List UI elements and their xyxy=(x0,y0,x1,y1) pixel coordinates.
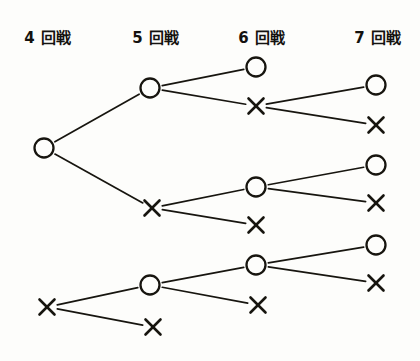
edge-n6e-to-n7e xyxy=(268,247,363,263)
node-circle-n7e xyxy=(367,236,386,255)
column-header-round5: 5 回戦 xyxy=(132,26,180,47)
edge-n6b-to-n7b xyxy=(266,108,365,124)
edges-group xyxy=(55,69,366,325)
edge-n6c-to-n7c xyxy=(268,167,363,185)
tournament-tree-diagram: 4 回戦5 回戦6 回戦7 回戦 xyxy=(0,0,420,361)
edge-n6e-to-n7f xyxy=(268,267,365,282)
node-circle-n5a xyxy=(141,79,160,98)
column-header-round7: 7 回戦 xyxy=(354,26,402,47)
node-cross-n6b xyxy=(249,99,264,114)
edge-n4b-to-n5c xyxy=(57,288,138,305)
node-cross-n7d xyxy=(369,196,384,211)
node-circle-n6c xyxy=(247,178,266,197)
node-cross-n5d xyxy=(146,320,161,335)
edge-n4a-to-n5a xyxy=(55,94,139,142)
node-circle-n7c xyxy=(367,156,386,175)
edge-n5a-to-n6a xyxy=(162,69,243,85)
edge-n4a-to-n5b xyxy=(55,154,143,203)
node-cross-n7f xyxy=(369,276,384,291)
tree-graphics xyxy=(0,0,420,361)
edge-n5b-to-n6c xyxy=(162,189,243,205)
edge-n4b-to-n5d xyxy=(57,309,142,325)
node-cross-n7b xyxy=(369,118,384,133)
node-cross-n5b xyxy=(145,201,160,216)
node-circle-n5c xyxy=(141,276,160,295)
node-circle-n6e xyxy=(247,256,266,275)
node-cross-n6d xyxy=(249,218,264,233)
edge-n6c-to-n7d xyxy=(268,189,365,202)
node-circle-n4a xyxy=(35,139,54,158)
column-header-round4: 4 回戦 xyxy=(24,26,72,47)
edge-n5c-to-n6e xyxy=(162,267,243,282)
edge-n6b-to-n7a xyxy=(266,87,363,104)
node-cross-n4b xyxy=(40,300,55,315)
node-circle-n7a xyxy=(367,76,386,95)
edge-n5a-to-n6b xyxy=(162,90,245,104)
edge-n5b-to-n6d xyxy=(162,210,245,224)
column-header-round6: 6 回戦 xyxy=(238,26,286,47)
node-cross-n6f xyxy=(251,298,266,313)
node-circle-n6a xyxy=(247,58,266,77)
edge-n5c-to-n6f xyxy=(162,287,247,303)
